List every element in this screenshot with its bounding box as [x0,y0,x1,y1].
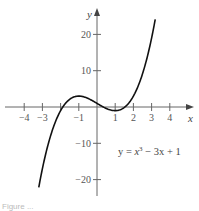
x-tick-label: −4 [19,112,30,123]
x-tick-label: −1 [73,112,84,123]
x-tick-label: 2 [131,112,136,123]
equation-label: y = x3 − 3x + 1 [118,145,181,157]
cubic-function-graph: −4−3−112342010−10−20 x y y = x3 − 3x + 1… [0,0,199,211]
y-tick-label: 10 [81,65,91,76]
x-tick-label: 1 [113,112,118,123]
x-tick-label: −3 [37,112,48,123]
x-tick-label: 4 [167,112,172,123]
axes [5,8,194,196]
y-tick-label: −20 [75,174,91,185]
figure-caption: Figure ... [2,202,34,211]
x-axis-label: x [187,112,193,124]
y-tick-label: −10 [75,138,91,149]
y-axis-label: y [86,8,92,20]
x-tick-label: 3 [149,112,154,123]
y-tick-label: 20 [81,29,91,40]
